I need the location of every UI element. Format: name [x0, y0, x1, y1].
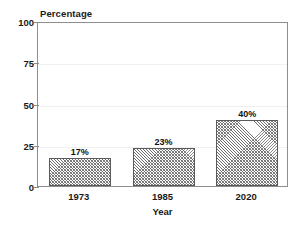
x-tick-label: 2020: [215, 191, 277, 202]
plot-area: 17%23%40%: [37, 22, 288, 187]
x-tick-label: 1985: [132, 191, 194, 202]
x-axis-label: Year: [37, 206, 288, 217]
bar-value-label: 23%: [154, 137, 172, 147]
bar[interactable]: 40%: [216, 120, 278, 186]
y-tick-mark: [34, 187, 39, 188]
cropped-title-remnant: [58, 0, 248, 1]
y-tick-label: 75: [0, 58, 34, 69]
y-tick-label: 50: [0, 99, 34, 110]
y-tick-mark: [34, 105, 39, 106]
gridline: [38, 64, 287, 65]
gridline: [38, 106, 287, 107]
x-tick-label: 1973: [48, 191, 110, 202]
y-tick-mark: [34, 146, 39, 147]
y-tick-mark: [34, 63, 39, 64]
y-tick-label: 25: [0, 140, 34, 151]
y-tick-label: 100: [0, 17, 34, 28]
y-axis-label: Percentage: [40, 8, 92, 19]
bar-value-label: 40%: [238, 109, 256, 119]
bar[interactable]: 17%: [49, 158, 111, 186]
y-tick-label: 0: [0, 182, 34, 193]
bar[interactable]: 23%: [133, 148, 195, 186]
y-axis-ticks: 0255075100: [0, 22, 34, 187]
bar-value-label: 17%: [71, 147, 89, 157]
bar-chart-figure: Percentage 17%23%40% 0255075100 19731985…: [0, 0, 301, 225]
y-tick-mark: [34, 22, 39, 23]
